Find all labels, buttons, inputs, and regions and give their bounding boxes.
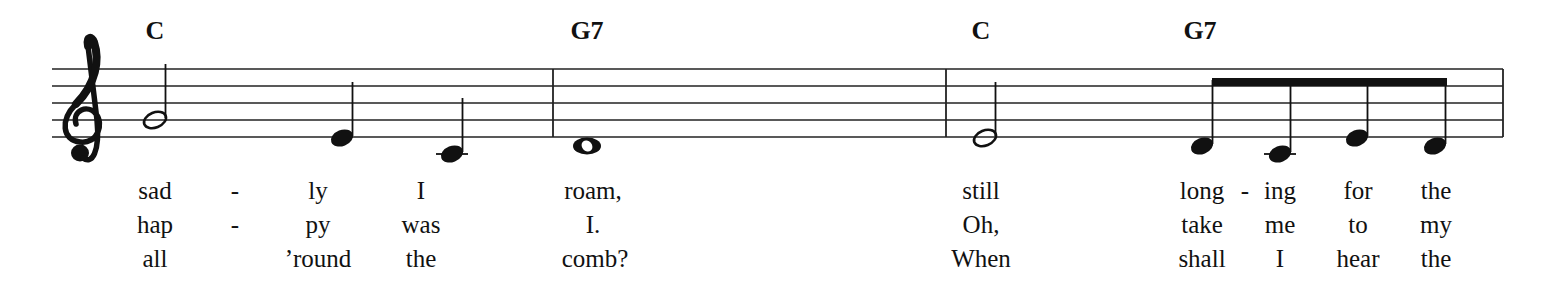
lyric-verse-1: long <box>1180 178 1224 203</box>
lyric-verse-1: roam, <box>564 178 622 203</box>
lyric-verse-1: for <box>1343 178 1372 203</box>
note-g4-half <box>142 64 169 131</box>
lyric-verse-1: ing <box>1264 178 1296 203</box>
lyric-verse-3: I <box>1276 246 1284 271</box>
beam <box>1212 78 1447 86</box>
lyric-verse-1: the <box>1421 178 1452 203</box>
lyric-verse-2: my <box>1420 212 1452 237</box>
lyric-verse-2: was <box>402 212 441 237</box>
note-d4-eighth <box>1188 80 1215 158</box>
lyric-verse-3: shall <box>1178 246 1225 271</box>
treble-clef-icon <box>65 38 99 162</box>
lyric-verse-3: all <box>143 246 168 271</box>
chord-symbol: C <box>972 18 991 44</box>
lyric-verse-2: take <box>1181 212 1223 237</box>
lyric-verse-2: - <box>231 212 239 237</box>
lyric-verse-2: me <box>1265 212 1296 237</box>
chord-symbol: G7 <box>570 18 603 44</box>
lyric-verse-3: hear <box>1336 246 1379 271</box>
note-c4-quarter <box>436 98 468 166</box>
note-e4-eighth <box>1343 80 1370 150</box>
lyric-verse-1: - <box>1241 178 1249 203</box>
note-e4-half <box>972 82 999 149</box>
lyric-verse-1: - <box>231 178 239 203</box>
lyric-verse-3: the <box>406 246 437 271</box>
lyric-verse-2: to <box>1348 212 1367 237</box>
chord-symbol: C <box>146 18 165 44</box>
lyric-verse-3: comb? <box>562 246 629 271</box>
staff <box>0 0 1551 287</box>
notes <box>142 64 1449 166</box>
lyric-verse-1: I <box>417 178 425 203</box>
lyric-verse-3: ’round <box>285 246 352 271</box>
lyric-verse-2: I. <box>586 212 601 237</box>
music-score: CG7CG7 sad-lyIroam,stilllong-ingfortheha… <box>0 0 1551 287</box>
lyric-verse-2: Oh, <box>963 212 1000 237</box>
note-e4-quarter <box>328 82 355 150</box>
lyric-verse-1: ly <box>308 178 327 203</box>
lyric-verse-2: py <box>306 212 331 237</box>
lyric-verse-3: When <box>951 246 1011 271</box>
note-c4-eighth <box>1264 80 1296 166</box>
lyric-verse-2: hap <box>137 212 173 237</box>
lyric-verse-1: still <box>962 178 1000 203</box>
lyric-verse-1: sad <box>138 178 171 203</box>
chord-symbol: G7 <box>1183 18 1216 44</box>
note-d4-eighth <box>1421 80 1448 158</box>
note-d4-whole <box>573 138 601 155</box>
lyric-verse-3: the <box>1421 246 1452 271</box>
